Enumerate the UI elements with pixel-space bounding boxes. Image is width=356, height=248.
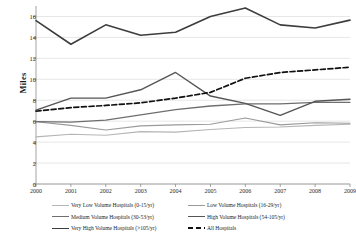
legend-item[interactable]: Very Low Volume Hospitals (0-15/yr) [52, 202, 154, 208]
legend-item[interactable]: High Volume Hospitals (54-105/yr) [188, 214, 285, 220]
x-tick-label: 2004 [170, 188, 182, 194]
series-line-2 [36, 102, 350, 122]
y-axis-tick-labels: 0246810121416 [14, 0, 36, 200]
series-line-3 [36, 72, 350, 115]
x-tick-label: 2001 [65, 188, 77, 194]
y-tick-label: 2 [16, 160, 36, 167]
legend-item[interactable]: Low Volume Hospitals (16-29/yr) [188, 202, 281, 208]
x-tick-label: 2008 [309, 188, 321, 194]
plot-area: Miles 0246810121416 20002001200220032004… [0, 0, 353, 200]
y-tick-label: 6 [16, 118, 36, 125]
x-tick-label: 2003 [135, 188, 147, 194]
legend-label: High Volume Hospitals (54-105/yr) [207, 214, 285, 220]
chart-legend: Very Low Volume Hospitals (0-15/yr)Low V… [0, 202, 353, 248]
y-tick-label: 14 [16, 34, 36, 41]
legend-label: Low Volume Hospitals (16-29/yr) [207, 202, 281, 208]
plot-svg [0, 0, 353, 200]
x-tick-label: 2009 [344, 188, 356, 194]
y-tick-label: 10 [16, 76, 36, 83]
series-line-0 [36, 124, 350, 137]
y-tick-label: 8 [16, 97, 36, 104]
legend-swatch-line [52, 216, 69, 217]
x-tick-label: 2006 [239, 188, 251, 194]
legend-label: Medium Volume Hospitals (30-53/yr) [71, 214, 154, 220]
x-tick-label: 2000 [30, 188, 42, 194]
legend-swatch-line [52, 228, 69, 229]
legend-item[interactable]: Medium Volume Hospitals (30-53/yr) [52, 214, 154, 220]
x-tick-label: 2002 [100, 188, 112, 194]
legend-swatch-line [188, 205, 205, 206]
legend-label: All Hospitals [207, 225, 236, 231]
y-tick-label: 4 [16, 139, 36, 146]
series-line-1 [36, 118, 350, 130]
legend-item[interactable]: All Hospitals [188, 225, 236, 231]
legend-swatch-line [52, 205, 69, 206]
series-line-5 [36, 67, 350, 111]
x-axis-tick-labels: 2000200120022003200420052006200720082009 [0, 186, 353, 200]
legend-item[interactable]: Very High Volume Hospitals (>105/yr) [52, 225, 156, 231]
legend-swatch-dashed [188, 227, 205, 229]
x-tick-label: 2007 [274, 188, 286, 194]
legend-swatch-line [188, 216, 205, 217]
y-tick-label: 12 [16, 55, 36, 62]
legend-label: Very High Volume Hospitals (>105/yr) [71, 225, 156, 231]
legend-label: Very Low Volume Hospitals (0-15/yr) [71, 202, 154, 208]
y-tick-label: 16 [16, 13, 36, 20]
x-tick-label: 2005 [204, 188, 216, 194]
series-line-4 [36, 8, 350, 44]
